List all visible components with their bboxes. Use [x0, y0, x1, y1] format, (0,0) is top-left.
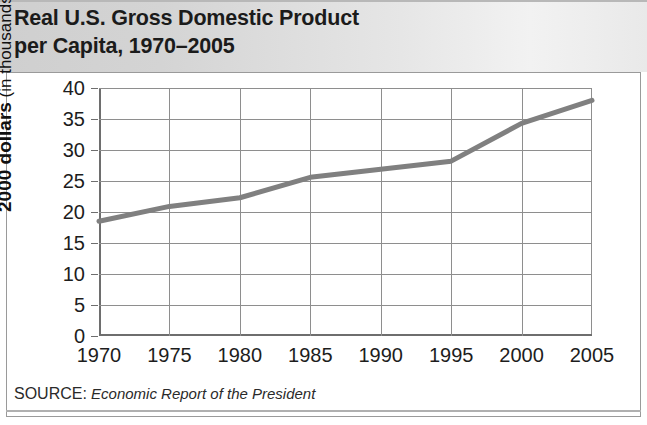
y-axis-title: 2000 dollars (in thousands)	[0, 0, 16, 212]
source-note: SOURCE: Economic Report of the President	[14, 385, 315, 403]
data-series-line	[99, 88, 592, 336]
x-axis-tick-label: 1995	[429, 344, 474, 367]
chart-figure: Real U.S. Gross Domestic Product per Cap…	[0, 0, 647, 425]
y-axis-tick-mark	[91, 212, 98, 213]
x-axis-tick-label: 2005	[570, 344, 615, 367]
y-axis-title-bold: 2000 dollars	[0, 102, 15, 212]
plot-area	[99, 88, 592, 336]
y-axis-tick-mark	[91, 305, 98, 306]
y-axis-title-plain: (in thousands)	[0, 0, 15, 102]
x-axis-tick-label: 1980	[218, 344, 263, 367]
bottom-rule	[6, 410, 641, 412]
x-axis-tick-label: 1975	[147, 344, 192, 367]
x-axis-tick-label: 1985	[288, 344, 333, 367]
y-axis-tick-label: 20	[41, 201, 85, 224]
y-axis-tick-label: 25	[41, 170, 85, 193]
page-title: Real U.S. Gross Domestic Product per Cap…	[14, 5, 359, 60]
y-axis-tick-label: 10	[41, 263, 85, 286]
x-axis-tick-label: 2000	[499, 344, 544, 367]
y-axis-tick-mark	[91, 150, 98, 151]
y-axis-tick-mark	[91, 274, 98, 275]
y-axis-tick-mark	[91, 336, 98, 337]
y-axis-tick-label: 5	[41, 294, 85, 317]
x-axis-tick-label: 1970	[77, 344, 122, 367]
y-axis-tick-mark	[91, 119, 98, 120]
source-text: Economic Report of the President	[91, 385, 315, 402]
y-axis-tick-mark	[91, 181, 98, 182]
y-axis-tick-mark	[91, 243, 98, 244]
y-axis-tick-label: 30	[41, 139, 85, 162]
gdp-line	[99, 100, 592, 221]
title-band: Real U.S. Gross Domestic Product per Cap…	[0, 0, 647, 72]
y-axis-tick-label: 40	[41, 77, 85, 100]
y-axis-tick-label: 35	[41, 108, 85, 131]
x-axis-tick-label: 1990	[358, 344, 403, 367]
source-label: SOURCE:	[14, 385, 87, 402]
y-axis-tick-mark	[91, 88, 98, 89]
y-axis-tick-label: 15	[41, 232, 85, 255]
